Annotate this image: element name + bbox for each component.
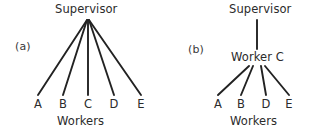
panel-a-leaf-e: E [134, 99, 148, 111]
diagram-edges-layer [0, 0, 312, 131]
edge-workerc-to-d [261, 66, 266, 95]
panel-a-leaf-c: C [81, 99, 95, 111]
panel-a-caption: Workers [57, 116, 104, 128]
panel-a-leaf-a: A [31, 99, 45, 111]
panel-b-supervisor-node: Supervisor [229, 4, 291, 16]
edge-workerc-to-a [218, 66, 249, 95]
edge-workerc-to-b [241, 66, 253, 95]
panel-a-supervisor-node: Supervisor [55, 4, 117, 16]
panel-b-worker-c-node: Worker C [231, 52, 284, 64]
panel-a-leaf-b: B [56, 99, 70, 111]
panel-b-caption: Workers [230, 116, 277, 128]
edge-workerc-to-e [265, 66, 289, 95]
panel-a-tag: (a) [15, 41, 31, 52]
edge-supervisor-to-b [63, 20, 87, 95]
panel-b-tag: (b) [188, 44, 204, 55]
panel-b-leaf-b: B [234, 99, 248, 111]
panel-b-leaf-a: A [211, 99, 225, 111]
panel-a-edges [38, 20, 141, 95]
panel-b-leaf-d: D [259, 99, 273, 111]
edge-supervisor-to-d [89, 20, 114, 95]
org-structure-figure: (a) Supervisor A B C D E Workers (b) Sup… [0, 0, 312, 131]
edge-supervisor-to-e [89, 20, 141, 95]
edge-supervisor-to-a [38, 20, 87, 95]
panel-b-leaf-e: E [282, 99, 296, 111]
panel-a-leaf-d: D [107, 99, 121, 111]
